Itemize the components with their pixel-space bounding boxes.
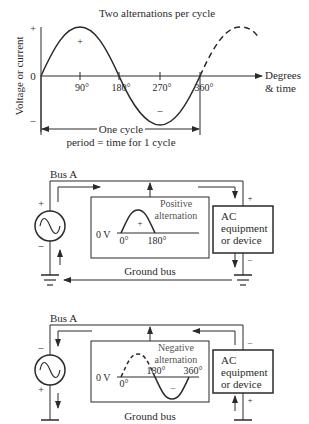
svg-text:0 V: 0 V bbox=[96, 372, 111, 383]
svg-text:Positive: Positive bbox=[160, 198, 193, 209]
waveform-title: Two alternations per cycle bbox=[99, 7, 215, 19]
svg-text:alternation: alternation bbox=[155, 210, 198, 221]
x-axis-label-2: & time bbox=[265, 82, 296, 94]
period-label: period = time for 1 cycle bbox=[66, 136, 175, 148]
negative-alternation-sign: – bbox=[157, 105, 164, 116]
positive-alternation-sign: + bbox=[77, 36, 83, 47]
svg-text:or device: or device bbox=[221, 378, 262, 390]
sine-waveform-graph: Two alternations per cycle Voltage or cu… bbox=[13, 7, 301, 148]
svg-text:180°: 180° bbox=[148, 235, 167, 246]
y-axis-label: Voltage or current bbox=[13, 36, 25, 115]
svg-text:+: + bbox=[247, 395, 252, 405]
svg-text:+: + bbox=[137, 218, 142, 228]
ground-symbol-right bbox=[234, 275, 252, 285]
y-zero-label: 0 bbox=[30, 70, 36, 82]
tick-180: 180° bbox=[112, 82, 131, 93]
svg-text:–: – bbox=[38, 342, 45, 353]
bus-a-label: Bus A bbox=[50, 168, 77, 180]
tick-90: 90° bbox=[75, 82, 89, 93]
svg-text:equipment: equipment bbox=[221, 366, 267, 378]
svg-text:or device: or device bbox=[221, 234, 262, 246]
ground-bus-label: Ground bus bbox=[124, 265, 176, 277]
y-plus-label: + bbox=[30, 23, 36, 34]
svg-text:–: – bbox=[170, 382, 176, 392]
tick-270: 270° bbox=[153, 82, 172, 93]
svg-text:+: + bbox=[247, 193, 252, 203]
negative-alternation-circuit: Bus A Ground bus – + Negative alternatio… bbox=[35, 312, 273, 422]
svg-text:–: – bbox=[247, 337, 253, 347]
svg-text:AC: AC bbox=[221, 210, 236, 222]
svg-text:360°: 360° bbox=[184, 365, 203, 376]
svg-text:equipment: equipment bbox=[221, 222, 267, 234]
svg-text:AC: AC bbox=[221, 354, 236, 366]
svg-text:–: – bbox=[38, 240, 45, 251]
svg-text:alternation: alternation bbox=[155, 354, 198, 365]
svg-text:+: + bbox=[38, 198, 44, 209]
ground-bus-label: Ground bus bbox=[124, 410, 176, 422]
y-minus-label: – bbox=[30, 115, 37, 126]
svg-text:Negative: Negative bbox=[158, 342, 195, 353]
x-axis-label-1: Degrees bbox=[265, 69, 301, 81]
ground-symbol-left bbox=[41, 275, 59, 285]
positive-alternation-circuit: Bus A Ground bus + – Positi bbox=[35, 168, 273, 285]
svg-text:0°: 0° bbox=[120, 378, 129, 389]
tick-360: 360° bbox=[195, 82, 214, 93]
sine-curve-dashed bbox=[200, 27, 259, 76]
bus-a-label: Bus A bbox=[50, 312, 77, 324]
svg-text:0°: 0° bbox=[120, 235, 129, 246]
svg-text:180°: 180° bbox=[147, 365, 166, 376]
svg-text:–: – bbox=[247, 254, 253, 264]
svg-text:0 V: 0 V bbox=[96, 229, 111, 240]
svg-text:+: + bbox=[38, 384, 44, 395]
one-cycle-label: One cycle bbox=[99, 123, 143, 135]
